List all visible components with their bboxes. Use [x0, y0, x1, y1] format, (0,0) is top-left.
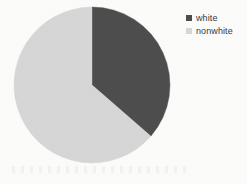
legend-item-nonwhite[interactable]: nonwhite	[186, 25, 246, 37]
legend-swatch-white-icon	[186, 15, 192, 21]
pie-chart-figure: white nonwhite	[0, 0, 247, 184]
chart-legend: white nonwhite	[186, 12, 246, 38]
legend-label-white: white	[196, 13, 218, 23]
legend-label-nonwhite: nonwhite	[196, 26, 233, 36]
legend-swatch-nonwhite-icon	[186, 28, 192, 34]
pie-slices-group	[14, 7, 170, 163]
legend-item-white[interactable]: white	[186, 12, 246, 24]
